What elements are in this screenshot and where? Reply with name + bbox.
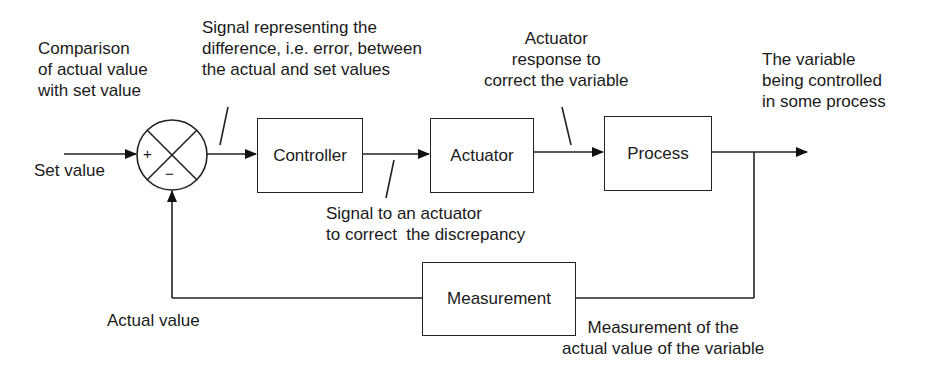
controlled-variable-annotation: The variable being controlled in some pr… bbox=[762, 49, 886, 112]
comparator-plus-sign: + bbox=[143, 145, 152, 162]
actuator-block: Actuator bbox=[430, 118, 534, 193]
comparator-minus-sign: − bbox=[165, 165, 174, 182]
measurement-block: Measurement bbox=[422, 262, 576, 336]
process-block: Process bbox=[604, 116, 712, 191]
controller-label: Controller bbox=[273, 146, 347, 166]
comparison-annotation: Comparison of actual value with set valu… bbox=[38, 38, 148, 101]
actuator-label: Actuator bbox=[450, 146, 513, 166]
measurement-annotation: Measurement of the actual value of the v… bbox=[562, 317, 764, 359]
process-label: Process bbox=[627, 144, 688, 164]
actual-value-label: Actual value bbox=[107, 310, 200, 331]
actuator-response-annotation: Actuator response to correct the variabl… bbox=[484, 28, 629, 91]
measurement-label: Measurement bbox=[447, 289, 551, 309]
actuator-signal-annotation: Signal to an actuator to correct the dis… bbox=[326, 203, 525, 245]
error-signal-annotation: Signal representing the difference, i.e.… bbox=[202, 17, 422, 80]
controller-block: Controller bbox=[257, 118, 363, 193]
set-value-label: Set value bbox=[34, 160, 105, 181]
